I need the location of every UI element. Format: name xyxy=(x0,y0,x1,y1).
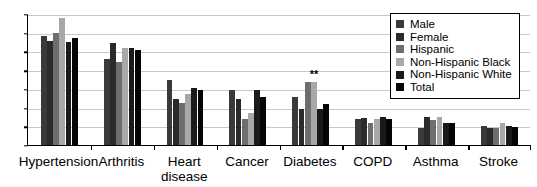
bar xyxy=(317,109,323,145)
x-tick-mark xyxy=(280,145,281,150)
bar xyxy=(248,113,254,145)
bar xyxy=(437,117,443,145)
x-tick-mark xyxy=(154,145,155,150)
y-tick-mark xyxy=(24,52,28,53)
bar xyxy=(323,104,329,145)
bar xyxy=(418,128,424,145)
bar xyxy=(122,48,128,145)
bar xyxy=(449,123,455,145)
legend-label: Male xyxy=(410,18,435,31)
bar xyxy=(506,126,512,145)
legend-swatch-icon xyxy=(396,71,404,79)
bar xyxy=(361,118,367,145)
y-tick-mark xyxy=(24,89,28,90)
x-tick-mark xyxy=(530,145,531,150)
bar xyxy=(59,18,65,145)
bar xyxy=(242,119,248,145)
significance-marker: ** xyxy=(310,69,319,80)
bar xyxy=(110,43,116,145)
bar-group xyxy=(41,15,78,145)
bar xyxy=(487,128,493,145)
bar xyxy=(135,50,141,145)
bar xyxy=(292,97,298,145)
y-tick-mark xyxy=(24,108,28,109)
y-tick-mark xyxy=(24,145,28,146)
legend-label: Female xyxy=(410,31,448,44)
legend-label: Hispanic xyxy=(410,43,454,56)
bar xyxy=(229,90,235,145)
bar xyxy=(260,97,266,145)
legend-item[interactable]: Female xyxy=(396,31,512,44)
legend: MaleFemaleHispanicNon-Hispanic BlackNon-… xyxy=(390,13,520,99)
bar xyxy=(380,117,386,145)
bar xyxy=(299,109,305,145)
bar xyxy=(179,103,185,145)
bar xyxy=(185,94,191,145)
bar xyxy=(41,36,47,145)
bar-group: ** xyxy=(292,15,329,145)
bar xyxy=(374,119,380,145)
bar-group xyxy=(167,15,204,145)
bar xyxy=(191,88,197,145)
bar xyxy=(129,48,135,145)
bar-group xyxy=(104,15,141,145)
legend-item[interactable]: Hispanic xyxy=(396,43,512,56)
bar xyxy=(305,82,311,145)
bar xyxy=(53,33,59,145)
bar xyxy=(424,117,430,145)
legend-label: Total xyxy=(410,81,434,94)
bar-group xyxy=(355,15,392,145)
bar xyxy=(500,123,506,145)
y-tick-mark xyxy=(24,14,28,15)
bar xyxy=(512,127,518,145)
x-axis-label: COPD xyxy=(353,154,392,169)
bar-chart: 010203040506070 ** HypertensionArthritis… xyxy=(0,0,537,187)
bar xyxy=(493,128,499,145)
bar xyxy=(116,62,122,145)
x-tick-mark xyxy=(468,145,469,150)
bar xyxy=(173,99,179,145)
bar xyxy=(236,99,242,145)
x-tick-mark xyxy=(217,145,218,150)
bar xyxy=(198,90,204,145)
x-axis-label: Arthritis xyxy=(98,154,144,169)
legend-item[interactable]: Male xyxy=(396,18,512,31)
legend-swatch-icon xyxy=(396,20,404,28)
legend-item[interactable]: Non-Hispanic Black xyxy=(396,56,512,69)
bar xyxy=(72,38,78,145)
legend-item[interactable]: Total xyxy=(396,81,512,94)
bar xyxy=(104,59,110,145)
legend-swatch-icon xyxy=(396,83,404,91)
bar-group xyxy=(229,15,266,145)
x-tick-mark xyxy=(342,145,343,150)
x-axis-label: Cancer xyxy=(225,154,269,169)
legend-label: Non-Hispanic White xyxy=(410,68,512,81)
bar xyxy=(66,42,72,145)
x-tick-mark xyxy=(91,145,92,150)
x-axis-label: Asthma xyxy=(413,154,459,169)
legend-item[interactable]: Non-Hispanic White xyxy=(396,68,512,81)
bar xyxy=(443,123,449,145)
legend-swatch-icon xyxy=(396,58,404,66)
y-tick-mark xyxy=(24,33,28,34)
bar xyxy=(481,126,487,145)
y-tick-mark xyxy=(24,127,28,128)
bar xyxy=(47,41,53,145)
x-axis-label: Diabetes xyxy=(283,154,336,169)
legend-swatch-icon xyxy=(396,33,404,41)
bar xyxy=(355,119,361,145)
bar xyxy=(386,119,392,145)
bar xyxy=(311,82,317,145)
bar xyxy=(430,120,436,145)
x-tick-mark xyxy=(405,145,406,150)
x-axis-label: Heart disease xyxy=(161,154,208,184)
x-axis-label: Hypertension xyxy=(19,154,99,169)
legend-label: Non-Hispanic Black xyxy=(410,56,510,69)
legend-swatch-icon xyxy=(396,45,404,53)
x-axis-label: Stroke xyxy=(479,154,518,169)
bar xyxy=(167,80,173,146)
y-tick-mark xyxy=(24,70,28,71)
bar xyxy=(254,90,260,145)
bar xyxy=(368,123,374,145)
